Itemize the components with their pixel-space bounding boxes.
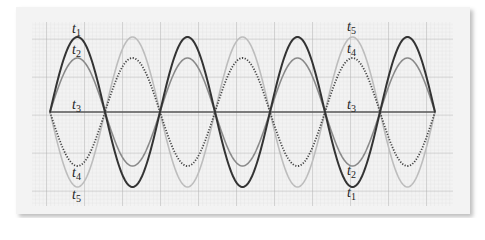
grid <box>32 22 453 206</box>
curve-label-t4: t4 <box>347 42 356 58</box>
curve-label-t1: t1 <box>347 186 356 202</box>
curve-label-t5: t5 <box>72 188 81 204</box>
curve-label-t2: t2 <box>347 164 356 180</box>
curve-label-t3: t3 <box>347 98 356 114</box>
curve-label-t3: t3 <box>72 98 81 114</box>
curve-label-t5: t5 <box>347 20 356 36</box>
curve-label-t2: t2 <box>72 43 81 59</box>
curve-label-t1: t1 <box>72 22 81 38</box>
curve-label-t4: t4 <box>72 166 81 182</box>
